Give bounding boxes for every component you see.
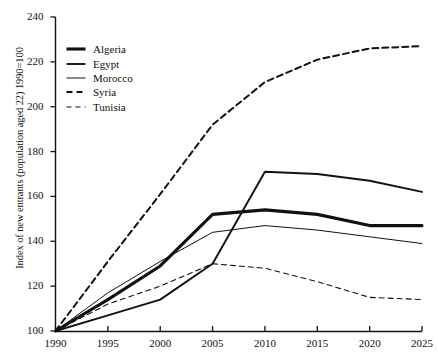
x-axis-tick-label: 2000 — [140, 337, 180, 349]
y-axis-tick-label: 180 — [16, 145, 44, 157]
legend-item-syria[interactable]: Syria — [66, 85, 162, 99]
legend-label: Morocco — [93, 72, 133, 84]
x-axis-tick-label: 2010 — [245, 337, 285, 349]
legend-swatch-tunisia-icon — [66, 101, 86, 113]
y-axis-ticks — [51, 17, 56, 331]
series-line-egypt — [56, 172, 423, 331]
x-axis-ticks — [56, 326, 423, 331]
y-axis-tick-label: 240 — [16, 10, 44, 22]
x-axis-tick-label: 2005 — [193, 337, 233, 349]
legend-swatch-syria-icon — [66, 86, 86, 98]
legend-item-egypt[interactable]: Egypt — [66, 56, 162, 70]
series-line-algeria — [56, 210, 423, 331]
chart-legend: AlgeriaEgyptMoroccoSyriaTunisia — [66, 42, 162, 114]
legend-label: Tunisia — [93, 101, 126, 113]
legend-label: Algeria — [93, 43, 126, 55]
x-axis-tick-label: 2020 — [350, 337, 390, 349]
x-axis-tick-label: 1990 — [36, 337, 76, 349]
y-axis-tick-label: 100 — [16, 324, 44, 336]
y-axis-tick-label: 220 — [16, 55, 44, 67]
legend-item-tunisia[interactable]: Tunisia — [66, 100, 162, 114]
legend-label: Syria — [93, 86, 116, 98]
y-axis-tick-label: 120 — [16, 279, 44, 291]
x-axis-tick-label: 2025 — [402, 337, 438, 349]
legend-label: Egypt — [93, 58, 119, 70]
legend-item-morocco[interactable]: Morocco — [66, 71, 162, 85]
legend-swatch-algeria-icon — [66, 43, 86, 55]
y-axis-tick-label: 160 — [16, 189, 44, 201]
x-axis-tick-label: 1995 — [88, 337, 128, 349]
legend-item-algeria[interactable]: Algeria — [66, 42, 162, 56]
y-axis-tick-label: 200 — [16, 100, 44, 112]
y-axis-tick-label: 140 — [16, 234, 44, 246]
legend-swatch-morocco-icon — [66, 72, 86, 84]
x-axis-tick-label: 2015 — [297, 337, 337, 349]
legend-swatch-egypt-icon — [66, 58, 86, 70]
